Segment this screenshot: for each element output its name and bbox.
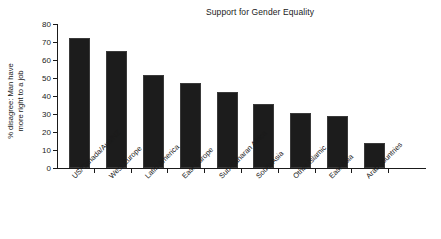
x-axis-tick-mark: [167, 169, 168, 173]
bar: [106, 51, 127, 168]
y-axis-title: % disagree: Man have more right to a job: [6, 36, 34, 166]
chart-title: Support for Gender Equality: [120, 7, 400, 17]
bar: [69, 38, 90, 168]
y-axis-tick-label: 70: [42, 38, 51, 47]
y-axis-tick-mark: [53, 60, 57, 61]
y-axis-tick-mark: [53, 114, 57, 115]
y-axis-tick-label: 80: [42, 20, 51, 29]
x-axis-tick-mark: [204, 169, 205, 173]
y-axis-tick-mark: [53, 96, 57, 97]
bar: [143, 75, 164, 168]
y-axis-title-line-2: more right to a job: [16, 36, 26, 166]
y-axis-tick-label: 10: [42, 146, 51, 155]
y-axis-tick-label: 60: [42, 56, 51, 65]
x-axis-tick-mark: [131, 169, 132, 173]
x-axis-tick-mark: [388, 169, 389, 173]
y-axis-tick-mark: [53, 42, 57, 43]
x-axis-tick-mark: [278, 169, 279, 173]
y-axis-tick-label: 40: [42, 92, 51, 101]
x-axis-tick-mark: [94, 169, 95, 173]
x-axis-tick-mark: [351, 169, 352, 173]
y-axis-tick-mark: [53, 150, 57, 151]
bar-chart-figure: Support for Gender Equality % disagree: …: [0, 0, 441, 239]
y-axis-title-line-1: % disagree: Man have: [6, 36, 16, 166]
x-axis-labels: US/Canada/Aus/NZWest EuropeLatin America…: [57, 174, 426, 238]
plot-area: 01020304050607080: [57, 24, 425, 168]
y-axis-tick-label: 30: [42, 110, 51, 119]
y-axis-tick-label: 0: [47, 164, 51, 173]
y-axis-tick-mark: [53, 168, 57, 169]
y-axis-tick-label: 50: [42, 74, 51, 83]
x-axis-tick-mark: [315, 169, 316, 173]
y-axis-tick-mark: [53, 24, 57, 25]
y-axis-tick-mark: [53, 132, 57, 133]
y-axis-tick-mark: [53, 78, 57, 79]
y-axis-tick-label: 20: [42, 128, 51, 137]
x-axis-tick-mark: [241, 169, 242, 173]
